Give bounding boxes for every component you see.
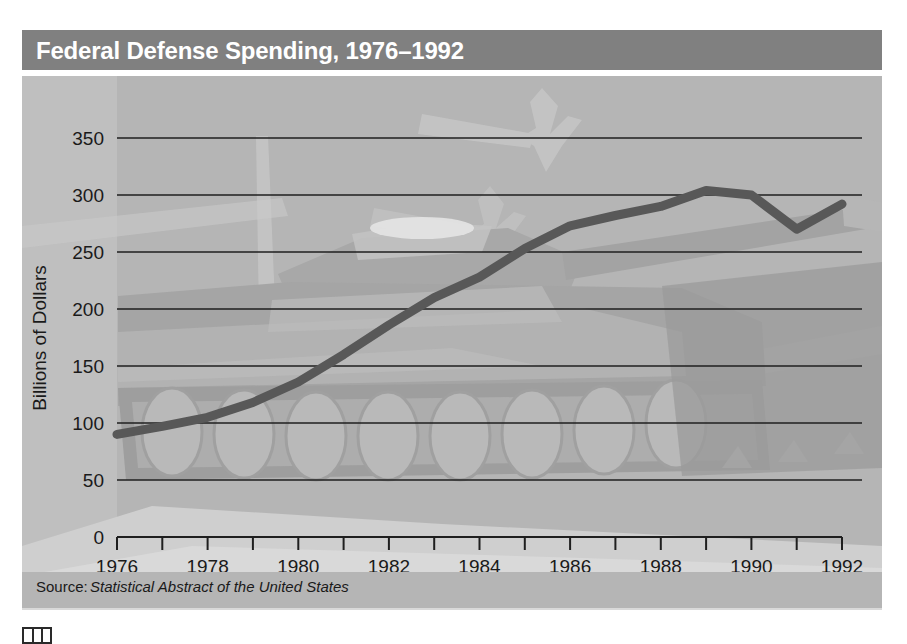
y-tick-0: 0 [93, 527, 104, 548]
y-tick-150: 150 [72, 356, 104, 377]
defense-spending-line [117, 190, 842, 434]
y-tick-100: 100 [72, 413, 104, 434]
page-title: Federal Defense Spending, 1976–1992 [36, 37, 464, 65]
y-tick-250: 250 [72, 242, 104, 263]
y-tick-350: 350 [72, 128, 104, 149]
source-publication: Statistical Abstract of the United State… [90, 578, 349, 595]
x-axis-ticks [117, 537, 842, 550]
source-prefix: Source: [36, 578, 88, 595]
y-axis-title: Billions of Dollars [29, 265, 50, 411]
page-corner-marker [22, 627, 52, 644]
y-tick-50: 50 [83, 470, 104, 491]
chart-panel: 350 300 250 200 150 100 50 0 Billions of… [22, 76, 882, 610]
source-note: Source: Statistical Abstract of the Unit… [22, 572, 882, 608]
gridlines [117, 138, 862, 480]
y-tick-200: 200 [72, 299, 104, 320]
figure: Federal Defense Spending, 1976–1992 [22, 30, 882, 610]
y-tick-300: 300 [72, 185, 104, 206]
chart-title-bar: Federal Defense Spending, 1976–1992 [22, 30, 882, 70]
plot-area: 350 300 250 200 150 100 50 0 Billions of… [22, 76, 882, 610]
